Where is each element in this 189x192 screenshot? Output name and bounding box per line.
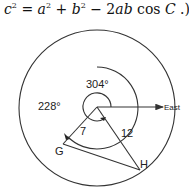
label-304: 304°	[86, 78, 109, 90]
label-distance-h: 12	[121, 127, 133, 139]
label-228: 228°	[38, 100, 61, 112]
line-g-h	[63, 144, 140, 170]
bearing-diagram: 304° 228° 7 12 G H East	[0, 0, 189, 192]
label-point-h: H	[140, 158, 148, 170]
line-to-h	[97, 107, 140, 170]
label-distance-g: 7	[80, 125, 86, 137]
label-point-g: G	[55, 145, 64, 157]
label-east: East	[164, 103, 181, 112]
